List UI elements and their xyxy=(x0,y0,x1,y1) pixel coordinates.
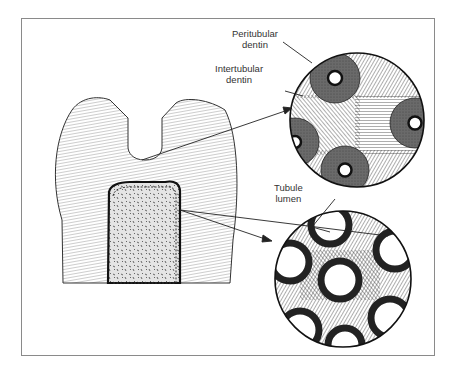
magnified-crown-dentin xyxy=(271,53,440,194)
pulp-chamber xyxy=(108,181,180,283)
magnified-pulpal-dentin xyxy=(270,206,420,362)
tooth-section xyxy=(55,98,237,283)
label-tubule-lumen: Tubule lumen xyxy=(274,183,303,204)
label-peritubular-dentin: Peritubular dentin xyxy=(232,29,278,50)
dentin-illustration xyxy=(0,0,460,373)
label-intertubular-dentin: Intertubular dentin xyxy=(215,64,263,85)
